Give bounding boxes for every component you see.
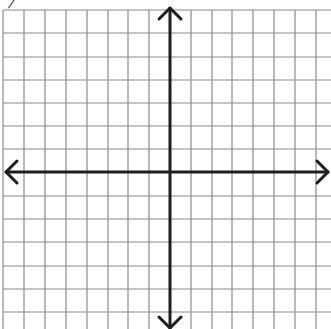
axes [6,8,328,328]
grid-lines [3,10,331,329]
coordinate-grid-svg [0,0,331,329]
coordinate-plane: / [0,0,331,329]
